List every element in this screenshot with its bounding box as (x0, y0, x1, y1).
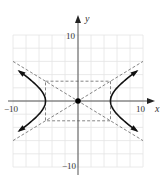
y-max-tick-label: 10 (66, 31, 76, 41)
y-axis-arrow-icon (75, 15, 81, 23)
x-axis-arrow-icon (147, 98, 155, 104)
x-min-tick-label: −10 (4, 104, 19, 114)
hyperbola-plot: y x 10 −10 −10 10 (0, 0, 166, 182)
y-axis-label: y (84, 13, 90, 24)
center-point (75, 98, 81, 104)
x-max-tick-label: 10 (136, 104, 146, 114)
y-min-tick-label: −10 (62, 161, 77, 171)
x-axis-label: x (154, 103, 160, 114)
